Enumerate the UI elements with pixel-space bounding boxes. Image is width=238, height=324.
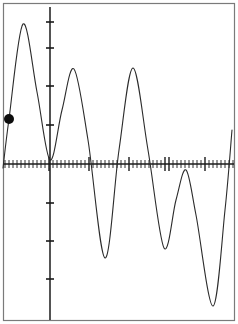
trace-point-marker[interactable] — [4, 114, 14, 124]
viewport-border — [4, 4, 235, 321]
plot-frame — [0, 0, 238, 324]
graph-screen — [0, 0, 238, 324]
plot-canvas[interactable] — [0, 0, 238, 324]
